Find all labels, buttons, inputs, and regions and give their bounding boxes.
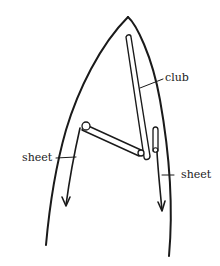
sail-right-edge bbox=[128, 17, 171, 256]
sail-left-edge bbox=[46, 17, 128, 245]
club-spar bbox=[126, 35, 150, 160]
sheet-right-label: sheet bbox=[181, 169, 211, 180]
sail-diagram bbox=[0, 0, 220, 266]
club-label: club bbox=[165, 72, 189, 83]
club-leader-line bbox=[140, 79, 163, 88]
boom bbox=[82, 124, 141, 156]
boom-pivot-right bbox=[138, 150, 144, 156]
sheet-left-label: sheet bbox=[22, 152, 52, 163]
boom-pivot-left bbox=[82, 122, 90, 130]
sheet-left-line bbox=[66, 128, 80, 205]
